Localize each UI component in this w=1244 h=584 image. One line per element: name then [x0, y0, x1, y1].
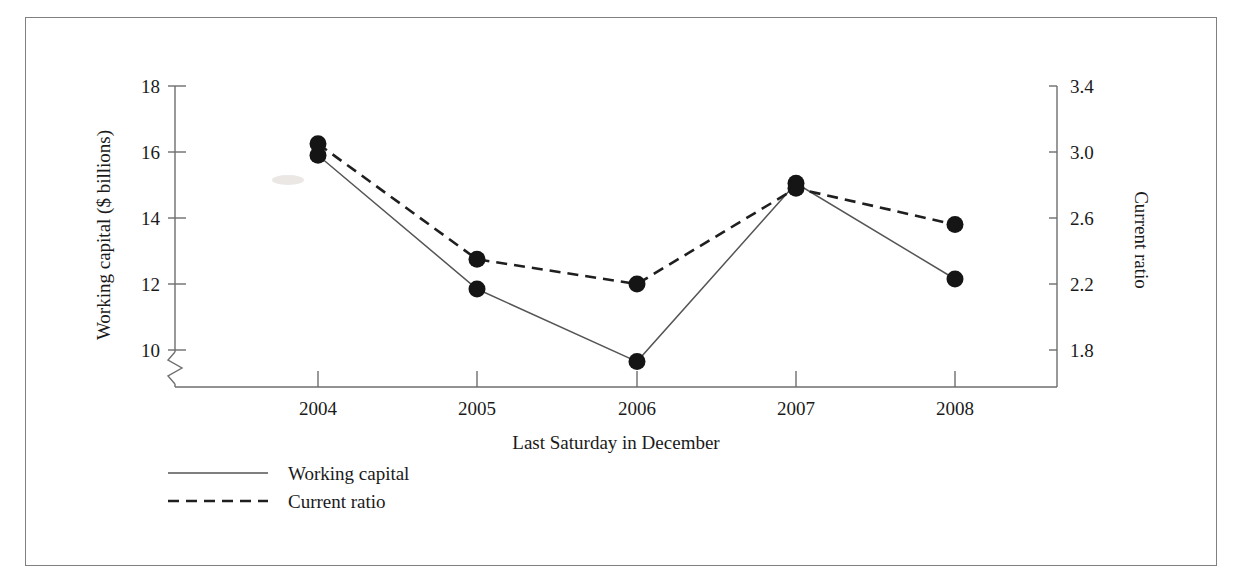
left-tick-label-16: 16: [141, 142, 160, 163]
line-chart: 18 16 14 12 10 Working capital ($ billio…: [0, 0, 1244, 584]
series-markers-current-ratio: [310, 135, 964, 292]
data-point-marker: [469, 251, 486, 268]
series-working-capital: [310, 147, 964, 370]
data-point-marker: [947, 271, 964, 288]
right-tick-label-2-2: 2.2: [1070, 274, 1094, 295]
chart-legend: Working capital Current ratio: [168, 463, 409, 512]
series-line-working-capital: [318, 155, 955, 361]
right-tick-label-1-8: 1.8: [1070, 340, 1094, 361]
series-current-ratio: [310, 135, 964, 292]
data-point-marker: [469, 281, 486, 298]
right-axis: 3.4 3.0 2.6 2.2 1.8 Current ratio: [1049, 76, 1152, 387]
left-axis-title: Working capital ($ billions): [93, 130, 115, 340]
scan-artifact: [272, 175, 304, 185]
series-line-current-ratio: [318, 144, 955, 284]
left-tick-label-12: 12: [141, 274, 160, 295]
x-tick-label-2005: 2005: [458, 398, 496, 419]
chart-page: 18 16 14 12 10 Working capital ($ billio…: [0, 0, 1244, 584]
left-tick-label-18: 18: [141, 76, 160, 97]
right-axis-title: Current ratio: [1131, 191, 1152, 289]
x-tick-label-2008: 2008: [936, 398, 974, 419]
x-tick-label-2006: 2006: [618, 398, 656, 419]
axis-break-zigzag: [168, 352, 182, 384]
x-tick-label-2007: 2007: [777, 398, 815, 419]
legend-label-current-ratio: Current ratio: [288, 491, 386, 512]
x-axis: 2004 2005 2006 2007 2008 Last Saturday i…: [175, 371, 1057, 453]
data-point-marker: [629, 353, 646, 370]
left-axis: 18 16 14 12 10 Working capital ($ billio…: [93, 76, 186, 387]
left-tick-label-14: 14: [141, 208, 161, 229]
data-point-marker: [947, 216, 964, 233]
right-tick-label-3-0: 3.0: [1070, 142, 1094, 163]
chart-area: 18 16 14 12 10 Working capital ($ billio…: [0, 0, 1244, 584]
data-point-marker: [788, 180, 805, 197]
right-tick-label-2-6: 2.6: [1070, 208, 1094, 229]
left-tick-label-10: 10: [141, 340, 160, 361]
data-point-marker: [310, 135, 327, 152]
series-markers-working-capital: [310, 147, 964, 370]
right-tick-label-3-4: 3.4: [1070, 76, 1094, 97]
x-axis-title: Last Saturday in December: [512, 432, 720, 453]
data-point-marker: [629, 276, 646, 293]
legend-label-working-capital: Working capital: [288, 463, 409, 484]
x-tick-label-2004: 2004: [299, 398, 338, 419]
